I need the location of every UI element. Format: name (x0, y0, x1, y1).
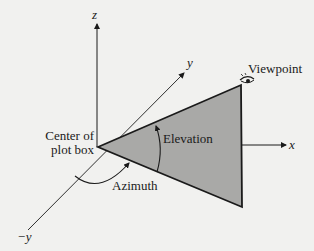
center-label-line1: Center of (34, 129, 94, 143)
neg-y-axis-label: −y (17, 230, 32, 244)
azimuth-label: Azimuth (112, 179, 158, 193)
diagram-graphics (0, 0, 314, 251)
center-label-line2: plot box (34, 143, 94, 157)
viewpoint-label: Viewpoint (248, 62, 302, 76)
view-geometry-diagram: z y −y x Viewpoint Center of plot box El… (0, 0, 314, 251)
elevation-label: Elevation (163, 132, 213, 146)
z-axis-label: z (92, 8, 97, 22)
center-of-plot-box-label: Center of plot box (34, 129, 94, 157)
x-axis-label: x (289, 138, 295, 152)
y-axis-label: y (187, 56, 193, 70)
